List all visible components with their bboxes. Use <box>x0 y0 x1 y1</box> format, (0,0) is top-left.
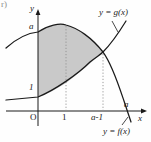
y-axis-arrow-icon <box>36 9 41 15</box>
math-figure: r) y x a 1 O 1 a-1 a y = g(x) y = f(x) <box>0 0 151 142</box>
page-corner-text-fragment: r) <box>1 0 7 9</box>
x-intercept-label-a: a <box>124 100 129 109</box>
shaded-region <box>38 24 103 97</box>
x-axis-label: x <box>138 114 142 123</box>
leader-line-g <box>112 21 118 32</box>
x-tick-label-a-minus-1: a-1 <box>91 113 103 122</box>
y-tick-label-1: 1 <box>29 83 34 92</box>
x-tick-label-1: 1 <box>62 113 67 122</box>
plot-canvas <box>0 0 151 142</box>
origin-label: O <box>30 113 37 122</box>
leader-line-f <box>122 117 128 125</box>
y-axis-label: y <box>30 4 34 13</box>
curve-label-g: y = g(x) <box>99 8 128 17</box>
y-tick-label-a: a <box>29 22 34 31</box>
curve-label-f: y = f(x) <box>103 127 130 136</box>
